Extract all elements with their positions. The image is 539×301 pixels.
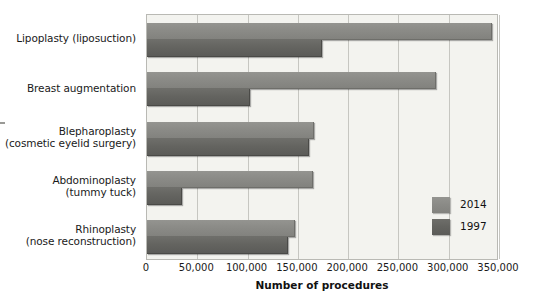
- category-label-line1-1: Breast augmentation: [27, 82, 136, 94]
- bar-1997-1: [147, 89, 250, 106]
- x-tick-label-5: 250,000: [377, 262, 418, 273]
- bar-2014-4: [147, 220, 295, 237]
- x-axis-tick-labels: 050,000100,000150,000200,000250,000300,0…: [146, 262, 498, 276]
- bar-1997-3: [147, 188, 182, 205]
- category-label-3: Abdominoplasty(tummy tuck): [0, 174, 136, 199]
- legend-swatch-1997: [432, 219, 450, 235]
- category-label-4: Rhinoplasty(nose reconstruction): [0, 223, 136, 248]
- bar-1997-2: [147, 139, 309, 156]
- category-label-line1-4: Rhinoplasty: [75, 223, 136, 235]
- category-label-0: Lipoplasty (liposuction): [0, 32, 136, 45]
- legend-label-1997: 1997: [460, 220, 487, 232]
- legend-item-1997: 1997: [432, 217, 518, 239]
- category-axis-labels: Lipoplasty (liposuction)Breast augmentat…: [0, 14, 140, 260]
- category-label-line2-4: (nose reconstruction): [0, 235, 136, 248]
- category-label-line1-0: Lipoplasty (liposuction): [16, 32, 136, 44]
- legend-label-2014: 2014: [460, 198, 487, 210]
- legend-swatch-2014: [432, 197, 450, 213]
- category-label-line1-2: Blepharoplasty: [59, 125, 136, 137]
- plot-area: 2014 1997: [146, 14, 498, 260]
- category-label-line1-3: Abdominoplasty: [52, 174, 136, 186]
- category-label-line2-2: (cosmetic eyelid surgery): [0, 137, 136, 150]
- category-label-1: Breast augmentation: [0, 82, 136, 95]
- category-label-line2-3: (tummy tuck): [0, 186, 136, 199]
- chart-legend: 2014 1997: [432, 195, 518, 239]
- bar-1997-4: [147, 237, 288, 254]
- x-axis-title: Number of procedures: [146, 279, 498, 291]
- x-tick-label-2: 100,000: [226, 262, 267, 273]
- x-tick-label-3: 150,000: [276, 262, 317, 273]
- bar-1997-0: [147, 40, 322, 57]
- x-tick-label-6: 300,000: [427, 262, 468, 273]
- bar-2014-3: [147, 171, 313, 188]
- x-tick-label-7: 350,000: [477, 262, 518, 273]
- bar-2014-0: [147, 23, 492, 40]
- legend-item-2014: 2014: [432, 195, 518, 217]
- x-tick-label-4: 200,000: [326, 262, 367, 273]
- x-tick-label-1: 50,000: [179, 262, 214, 273]
- bar-chart-figure: Lipoplasty (liposuction)Breast augmentat…: [0, 0, 539, 301]
- bar-2014-1: [147, 72, 436, 89]
- bar-2014-2: [147, 122, 314, 139]
- category-label-2: Blepharoplasty(cosmetic eyelid surgery): [0, 125, 136, 150]
- x-tick-label-0: 0: [143, 262, 149, 273]
